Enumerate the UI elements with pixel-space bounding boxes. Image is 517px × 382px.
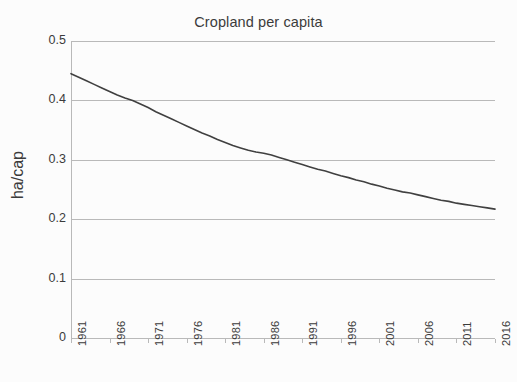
x-axis-tick-label: 1966 xyxy=(115,321,127,346)
x-axis-tick-label: 1981 xyxy=(230,321,242,346)
x-axis-tick-label: 2011 xyxy=(461,322,473,346)
data-line-svg xyxy=(71,41,495,338)
x-axis-tick-label: 1996 xyxy=(346,321,358,346)
x-axis-tick-mark xyxy=(264,339,265,343)
y-axis-tick-label: 0.2 xyxy=(22,211,66,225)
series-line-cropland-per-capita xyxy=(71,74,495,209)
x-axis-tick-label: 2006 xyxy=(423,321,435,346)
x-axis-tick-mark xyxy=(379,339,380,343)
y-axis-tick-label: 0.4 xyxy=(22,92,66,106)
x-axis-tick-label: 1971 xyxy=(153,321,165,346)
y-axis-tick-label: 0.3 xyxy=(22,152,66,166)
x-axis-tick-label: 1991 xyxy=(307,321,319,346)
x-axis-tick-label: 2001 xyxy=(384,321,396,346)
x-axis-tick-mark xyxy=(148,339,149,343)
x-axis-tick-mark xyxy=(187,339,188,343)
x-axis-tick-mark xyxy=(341,339,342,343)
x-axis-tick-mark xyxy=(71,339,72,343)
y-axis-tick-label: 0 xyxy=(22,330,66,344)
x-axis-tick-label: 2016 xyxy=(500,321,512,346)
x-axis-tick-mark xyxy=(495,339,496,343)
chart-title: Cropland per capita xyxy=(0,14,517,30)
x-axis-tick-mark xyxy=(456,339,457,343)
x-axis-tick-mark xyxy=(110,339,111,343)
y-axis-tick-label: 0.5 xyxy=(22,33,66,47)
chart-container: Cropland per capita ha/cap 00.10.20.30.4… xyxy=(0,0,517,382)
x-axis-tick-label: 1986 xyxy=(269,321,281,346)
x-axis-tick-label: 1961 xyxy=(76,321,88,346)
y-axis-tick-label: 0.1 xyxy=(22,271,66,285)
x-axis-tick-mark xyxy=(418,339,419,343)
x-axis-tick-mark xyxy=(225,339,226,343)
plot-area xyxy=(71,41,495,338)
x-axis-tick-label: 1976 xyxy=(192,321,204,346)
x-axis-tick-mark xyxy=(302,339,303,343)
y-axis-tick-labels: 00.10.20.30.40.5 xyxy=(16,0,66,382)
